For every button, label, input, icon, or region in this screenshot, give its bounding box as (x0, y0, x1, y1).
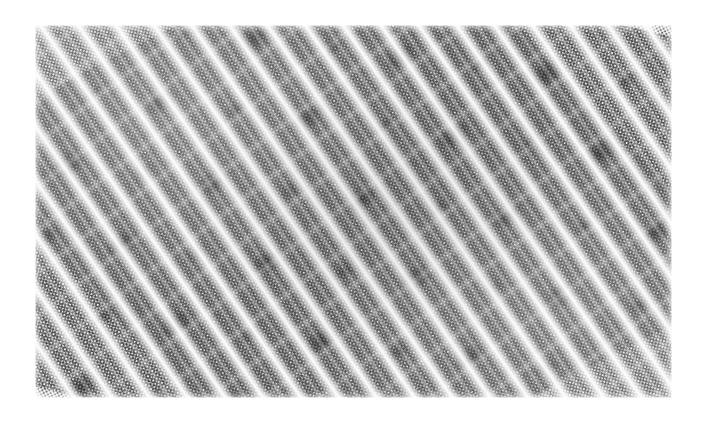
plate-edge-fade (35, 25, 672, 398)
page-canvas (0, 0, 707, 428)
halftone-texture-plate (35, 25, 672, 398)
